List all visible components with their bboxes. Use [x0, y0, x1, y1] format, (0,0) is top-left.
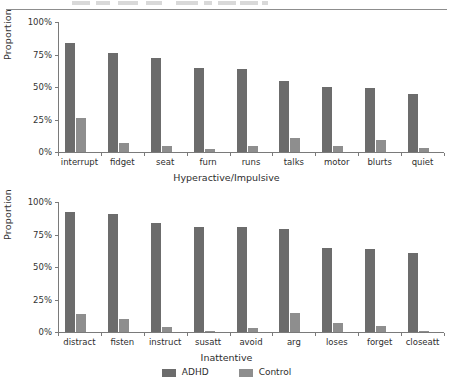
legend-swatch-control-icon	[239, 369, 253, 377]
bar-adhd-fidget	[108, 53, 118, 152]
bar-adhd-talks	[279, 81, 289, 153]
bar-adhd-furn	[194, 68, 204, 153]
x-tick-label-furn: furn	[187, 158, 230, 167]
legend-item-adhd: ADHD	[162, 368, 209, 377]
legend-swatch-adhd-icon	[162, 369, 176, 377]
bar-adhd-forget	[365, 249, 375, 332]
x-tick-mark	[444, 153, 445, 156]
y-axis-line	[58, 202, 59, 333]
cropped-header-artifact	[0, 0, 453, 12]
bar-adhd-instruct	[151, 223, 161, 332]
bar-control-blurts	[376, 140, 386, 152]
legend-label-adhd: ADHD	[182, 368, 209, 377]
bar-adhd-interrupt	[65, 43, 75, 152]
bar-adhd-distract	[65, 212, 75, 332]
bar-control-runs	[248, 146, 258, 153]
chart-panel-inattentive: Proportion 0%25%50%75%100% distractfiste…	[0, 194, 453, 391]
x-tick-label-avoid: avoid	[230, 338, 273, 347]
bar-adhd-fisten	[108, 214, 118, 332]
x-tick-mark	[358, 153, 359, 156]
x-tick-mark	[315, 333, 316, 336]
x-tick-mark	[230, 153, 231, 156]
legend-label-control: Control	[259, 368, 292, 377]
x-tick-mark	[444, 333, 445, 336]
x-tick-label-closeatt: closeatt	[401, 338, 444, 347]
bar-adhd-motor	[322, 87, 332, 152]
x-tick-mark	[101, 333, 102, 336]
y-axis-line	[58, 22, 59, 153]
y-tick-label: 25%	[22, 296, 52, 305]
y-tick-label: 100%	[22, 198, 52, 207]
x-tick-mark	[58, 333, 59, 336]
x-tick-label-runs: runs	[230, 158, 273, 167]
bar-control-furn	[205, 149, 215, 152]
y-tick-label: 75%	[22, 231, 52, 240]
x-tick-label-forget: forget	[358, 338, 401, 347]
bar-control-seat	[162, 146, 172, 153]
bar-adhd-seat	[151, 58, 161, 152]
x-tick-label-loses: loses	[315, 338, 358, 347]
x-axis-line	[58, 332, 444, 333]
x-axis-title: Inattentive	[0, 352, 453, 363]
x-tick-label-blurts: blurts	[358, 158, 401, 167]
bar-control-closeatt	[419, 331, 429, 332]
bar-adhd-loses	[322, 248, 332, 333]
y-tick-label: 50%	[22, 83, 52, 92]
bar-adhd-arg	[279, 229, 289, 332]
bar-adhd-susatt	[194, 227, 204, 332]
x-tick-mark	[401, 333, 402, 336]
y-tick-label: 100%	[22, 18, 52, 27]
x-tick-label-arg: arg	[272, 338, 315, 347]
y-tick-label: 25%	[22, 116, 52, 125]
bar-control-forget	[376, 326, 386, 333]
legend-item-control: Control	[239, 368, 292, 377]
bar-adhd-avoid	[237, 227, 247, 332]
x-tick-label-motor: motor	[315, 158, 358, 167]
x-tick-label-seat: seat	[144, 158, 187, 167]
y-tick-label: 0%	[22, 328, 52, 337]
x-tick-mark	[401, 153, 402, 156]
bar-control-talks	[290, 138, 300, 152]
bar-adhd-runs	[237, 69, 247, 152]
bar-adhd-closeatt	[408, 253, 418, 332]
x-tick-mark	[272, 333, 273, 336]
x-tick-mark	[187, 153, 188, 156]
bar-control-motor	[333, 146, 343, 153]
y-axis-label: Proportion	[2, 226, 13, 240]
x-tick-mark	[58, 153, 59, 156]
bar-control-susatt	[205, 331, 215, 332]
x-tick-label-quiet: quiet	[401, 158, 444, 167]
bar-control-quiet	[419, 148, 429, 152]
x-tick-mark	[358, 333, 359, 336]
y-tick-label: 50%	[22, 263, 52, 272]
x-tick-label-fisten: fisten	[101, 338, 144, 347]
chart-legend: ADHD Control	[0, 368, 453, 377]
x-tick-mark	[144, 153, 145, 156]
x-tick-mark	[144, 333, 145, 336]
x-tick-mark	[272, 153, 273, 156]
bar-control-instruct	[162, 327, 172, 332]
y-axis-label: Proportion	[2, 46, 13, 60]
x-axis-title: Hyperactive/Impulsive	[0, 172, 453, 183]
x-tick-mark	[230, 333, 231, 336]
x-axis-line	[58, 152, 444, 153]
x-tick-label-instruct: instruct	[144, 338, 187, 347]
x-tick-label-fidget: fidget	[101, 158, 144, 167]
x-tick-label-distract: distract	[58, 338, 101, 347]
x-tick-label-interrupt: interrupt	[58, 158, 101, 167]
bar-control-fidget	[119, 143, 129, 152]
bar-control-loses	[333, 323, 343, 332]
bar-adhd-blurts	[365, 88, 375, 152]
x-tick-mark	[187, 333, 188, 336]
bar-control-interrupt	[76, 118, 86, 152]
bar-adhd-quiet	[408, 94, 418, 153]
chart-panel-hyperactive-impulsive: Proportion 0%25%50%75%100% interruptfidg…	[0, 14, 453, 189]
x-tick-mark	[101, 153, 102, 156]
y-tick-label: 75%	[22, 51, 52, 60]
bar-control-arg	[290, 313, 300, 333]
x-tick-mark	[315, 153, 316, 156]
y-tick-label: 0%	[22, 148, 52, 157]
bar-control-fisten	[119, 319, 129, 332]
x-tick-label-susatt: susatt	[187, 338, 230, 347]
x-tick-label-talks: talks	[272, 158, 315, 167]
